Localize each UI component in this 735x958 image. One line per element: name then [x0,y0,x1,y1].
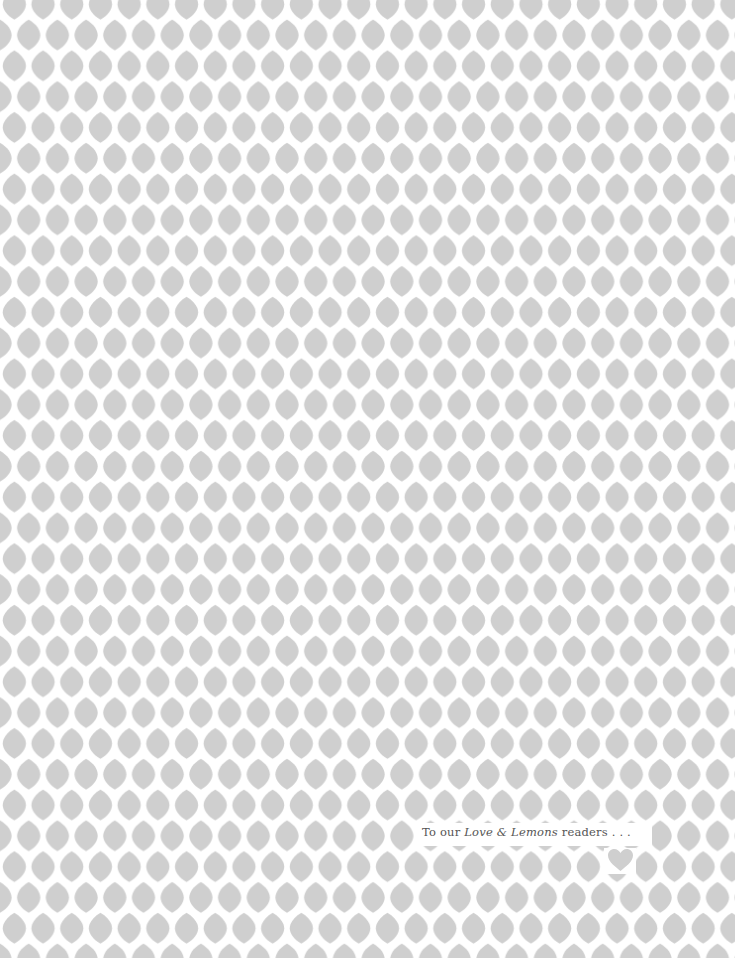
lemon-pattern-background [0,0,735,958]
book-page: To our Love & Lemons readers . . . [0,0,735,958]
book-title: Love & Lemons [464,825,558,839]
heart-icon [607,848,634,872]
dedication-prefix: To our [422,825,464,839]
dedication-suffix: readers . . . [558,825,631,839]
dedication-text: To our Love & Lemons readers . . . [422,825,631,839]
